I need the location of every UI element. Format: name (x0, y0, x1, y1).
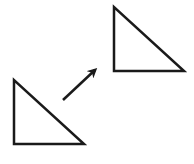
translation-diagram (0, 0, 194, 164)
translated-triangle (114, 7, 184, 71)
translation-arrow (63, 70, 95, 100)
